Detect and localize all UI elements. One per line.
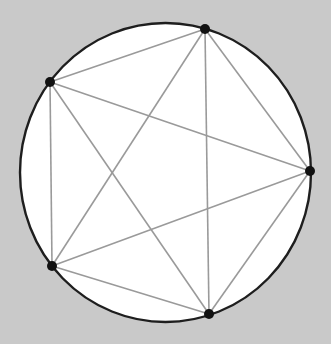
point-C bbox=[47, 261, 57, 271]
diagram-canvas bbox=[0, 0, 331, 344]
point-D bbox=[204, 309, 214, 319]
circle-outline bbox=[20, 23, 311, 322]
point-A bbox=[200, 24, 210, 34]
point-E bbox=[305, 166, 315, 176]
point-B bbox=[45, 77, 55, 87]
k5-circle-diagram bbox=[0, 0, 331, 344]
